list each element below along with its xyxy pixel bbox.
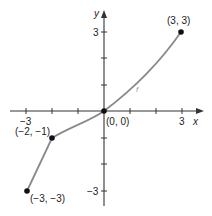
point-neg3-neg3 (24, 188, 30, 194)
point-3-3 (178, 29, 184, 35)
x-axis-arrow-icon (196, 108, 204, 114)
y-axis-arrow-icon (101, 10, 107, 18)
curve-label-f: f (136, 85, 139, 94)
y-axis: 3 −3 y (87, 8, 107, 206)
y-tick-label-min: −3 (87, 186, 99, 197)
point-label-origin: (0, 0) (106, 116, 129, 127)
marked-points: (−3, −3) (−2, −1) (0, 0) (3, 3) (15, 15, 190, 204)
point-origin (101, 108, 107, 114)
x-axis-label: x (192, 116, 199, 127)
function-graph: −3 3 x 3 −3 y f (−3, −3) (−2, −1) (0, 0)… (0, 0, 212, 216)
y-tick-label-max: 3 (93, 27, 99, 38)
point-neg2-neg1 (49, 135, 55, 141)
point-label-neg3-neg3: (−3, −3) (30, 193, 65, 204)
point-label-3-3: (3, 3) (167, 15, 190, 26)
point-label-neg2-neg1: (−2, −1) (15, 126, 50, 137)
x-tick-label-max: 3 (179, 116, 185, 127)
segment-linear (27, 138, 52, 191)
y-axis-label: y (93, 8, 100, 19)
